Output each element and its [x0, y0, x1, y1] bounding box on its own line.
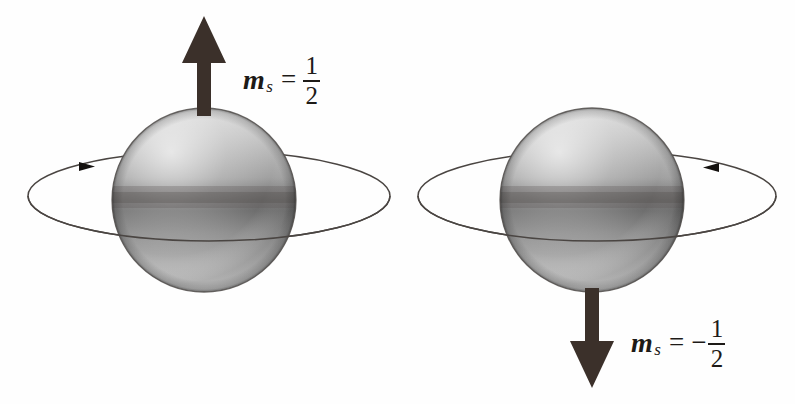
spin-up-subscript: s [266, 78, 273, 95]
spin-up-denominator: 2 [303, 82, 320, 109]
spin-up-numerator: 1 [303, 53, 320, 80]
spin-down-numerator: 1 [709, 316, 726, 343]
spin-up-sphere [110, 108, 300, 292]
spin-down-symbol: m [631, 329, 653, 357]
spin-diagram-figure: ms = 1 2 ms = − 1 2 [0, 0, 795, 404]
spin-down-subscript: s [654, 341, 661, 358]
spin-up-fraction: 1 2 [303, 53, 320, 108]
spin-down-equals: = [669, 329, 684, 356]
spin-up-symbol: m [243, 66, 265, 94]
spin-down-denominator: 2 [709, 345, 726, 372]
spin-up-equals: = [281, 66, 296, 93]
spin-up-label: ms = 1 2 [243, 52, 320, 107]
spin-down-orbit-arrowhead [703, 163, 719, 172]
spin-down-sphere [498, 108, 688, 292]
spin-down-fraction: 1 2 [708, 316, 725, 371]
spin-down-minus-sign: − [691, 329, 706, 356]
spin-up-group [28, 16, 390, 292]
spin-up-arrow [182, 16, 226, 116]
spin-down-label: ms = − 1 2 [631, 315, 725, 370]
spin-down-arrow [570, 288, 614, 388]
